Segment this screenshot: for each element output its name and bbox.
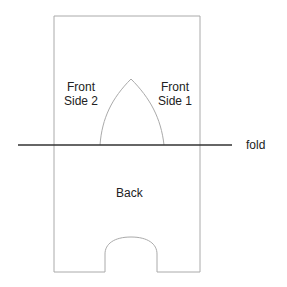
front-side-2-line1: Front [64,80,98,94]
front-side-2-label: Front Side 2 [64,80,98,108]
pointed-arch-shape [100,79,164,145]
back-label: Back [116,186,143,200]
front-side-1-line1: Front [158,80,192,94]
fold-label: fold [246,138,265,152]
pattern-outline [54,16,200,272]
front-side-1-line2: Side 1 [158,94,192,108]
front-side-1-label: Front Side 1 [158,80,192,108]
front-side-2-line2: Side 2 [64,94,98,108]
pattern-diagram [0,0,287,287]
